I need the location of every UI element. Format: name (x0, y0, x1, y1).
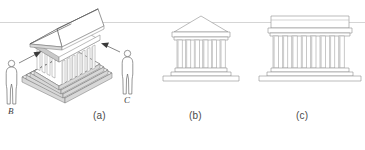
sight-arrow-c-head (101, 43, 109, 48)
observer-b-head (8, 60, 14, 66)
observer-b-label: B (8, 106, 14, 116)
observer-c-head (124, 50, 130, 56)
entablature-c (271, 16, 349, 28)
base-c-step-2 (267, 72, 353, 76)
figure-svg: .ln{fill:none;stroke:#5a5a5a;stroke-widt… (0, 0, 365, 150)
caption-panel-a: (a) (93, 110, 106, 121)
panel-a-isometric-temple (6, 9, 133, 104)
observer-b-figure (6, 60, 17, 104)
architrave-b (172, 32, 230, 37)
stepped-base-b (163, 68, 239, 81)
figure-root: .ln{fill:none;stroke:#5a5a5a;stroke-widt… (0, 0, 365, 150)
colonnade-c (273, 36, 344, 68)
pediment-b (174, 16, 228, 32)
panel-b-front-elevation (163, 16, 239, 81)
stepped-base-c (259, 68, 361, 81)
caption-panel-b: (b) (189, 110, 202, 121)
observer-c-label: C (124, 95, 130, 105)
observer-c-figure (122, 50, 133, 94)
base-b-step-2 (171, 72, 231, 76)
architrave-c (268, 28, 352, 33)
caption-panel-c: (c) (296, 110, 308, 121)
base-b-step-3 (163, 76, 239, 81)
architrave-b-lower (174, 37, 228, 40)
base-b-step-1 (175, 68, 227, 72)
sight-arrow-c (101, 43, 120, 52)
colonnade-b (177, 40, 225, 68)
observer-c-body (122, 57, 133, 94)
panel-c-side-elevation (259, 16, 361, 81)
architrave-c-lower (270, 33, 350, 36)
base-c-step-1 (271, 68, 349, 72)
base-c-step-3 (259, 76, 361, 81)
observer-b-body (6, 67, 17, 104)
